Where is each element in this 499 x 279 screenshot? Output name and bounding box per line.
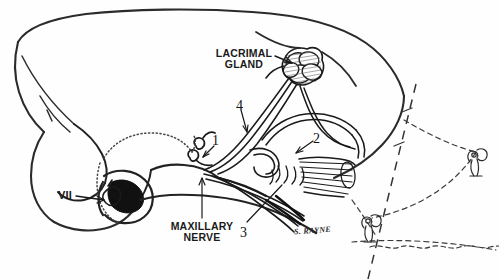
orbit-cavity (108, 180, 144, 213)
maxillary-nerve-label: MAXILLARYNERVE (156, 221, 248, 243)
anatomy-drawing (0, 0, 499, 279)
alveolar-nerve-tufts (270, 166, 304, 185)
callout-number-2: 2 (313, 131, 320, 147)
zygomatic-nerve-band (299, 158, 355, 198)
lacrimal-gland-label-line2: GLAND (225, 58, 263, 70)
callout-number-1: 1 (212, 133, 219, 149)
nerve-loop-knot (250, 148, 279, 177)
maxillary-nerve-label-line2: NERVE (184, 231, 221, 243)
orbital-rim-lines (22, 56, 74, 132)
projection-dashed-contours (352, 120, 496, 250)
parasympathetic-dotted-path (97, 133, 195, 223)
maxillary-leader-line (199, 178, 205, 218)
facial-nerve-label: VII (58, 190, 72, 202)
lacrimal-gland-label: LACRIMALGLAND (207, 48, 281, 70)
plane-tick-marks (394, 108, 412, 146)
skull-outline (15, 10, 404, 231)
anatomical-figure: LACRIMALGLAND MAXILLARYNERVE VII 1 2 3 4… (0, 0, 499, 279)
accessory-gland-upper (468, 149, 487, 176)
lacrimal-nerve-fibers (204, 78, 355, 174)
callout-number-4: 4 (236, 98, 243, 114)
section-plane-dashed-line (368, 84, 416, 279)
callout-number-3: 3 (240, 225, 247, 241)
lacrimal-gland-body (281, 48, 324, 85)
